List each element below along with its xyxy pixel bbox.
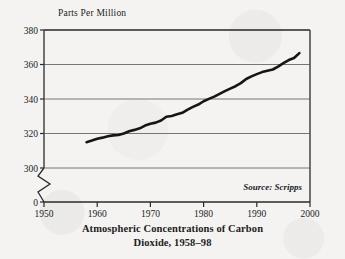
xtick-label-1960: 1960	[88, 209, 107, 219]
ytick-label-380: 380	[24, 26, 39, 36]
xtick-label-1970: 1970	[141, 209, 160, 219]
source-annotation: Source: Scripps	[243, 182, 302, 192]
co2-data-line	[87, 53, 300, 142]
xtick-label-1950: 1950	[35, 209, 54, 219]
y-axis-break-zigzag	[38, 168, 50, 202]
chart-title: Atmospheric Concentrations of Carbon Dio…	[0, 222, 345, 249]
xtick-label-1990: 1990	[247, 209, 266, 219]
chart-title-line-1: Atmospheric Concentrations of Carbon	[0, 222, 345, 236]
ytick-label-0: 0	[33, 198, 38, 208]
ytick-label-340: 340	[24, 95, 39, 105]
ytick-label-360: 360	[24, 60, 39, 70]
ytick-label-300: 300	[24, 164, 39, 174]
xtick-label-1980: 1980	[194, 209, 213, 219]
x-tick-labels: 1950 1960 1970 1980 1990 2000	[35, 209, 320, 219]
chart-title-line-2: Dioxide, 1958–98	[0, 236, 345, 250]
ytick-label-320: 320	[24, 129, 39, 139]
y-tick-labels: 380 360 340 320 300 0	[24, 26, 39, 208]
x-tick-marks	[44, 202, 310, 207]
xtick-label-2000: 2000	[301, 209, 320, 219]
figure-container: Parts Per Million	[0, 0, 345, 259]
horizontal-gridlines	[44, 30, 310, 168]
co2-line-chart: 380 360 340 320 300 0 1950 1960 1970 198…	[0, 0, 345, 259]
